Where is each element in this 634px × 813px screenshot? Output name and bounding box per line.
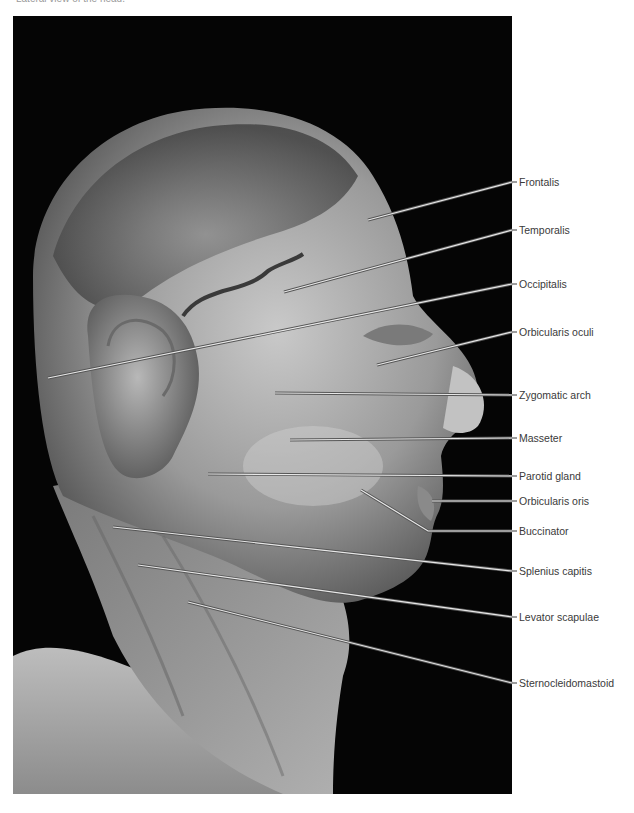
head-illustration — [13, 16, 512, 794]
dissection-photo — [13, 16, 512, 794]
label-splenius-capitis: Splenius capitis — [519, 565, 592, 577]
masseter-highlight — [243, 426, 383, 506]
label-occipitalis: Occipitalis — [519, 278, 567, 290]
label-orbicularis-oris: Orbicularis oris — [519, 495, 589, 507]
label-frontalis: Frontalis — [519, 176, 559, 188]
figure-caption: Lateral view of the head. — [16, 0, 125, 4]
label-masseter: Masseter — [519, 432, 562, 444]
label-levator-scapulae: Levator scapulae — [519, 611, 599, 623]
label-parotid-gland: Parotid gland — [519, 470, 581, 482]
label-sternocleidomastoid: Sternocleidomastoid — [519, 677, 614, 689]
label-zygomatic-arch: Zygomatic arch — [519, 389, 591, 401]
label-buccinator: Buccinator — [519, 525, 569, 537]
label-temporalis: Temporalis — [519, 224, 570, 236]
label-orbicularis-oculi: Orbicularis oculi — [519, 326, 594, 338]
